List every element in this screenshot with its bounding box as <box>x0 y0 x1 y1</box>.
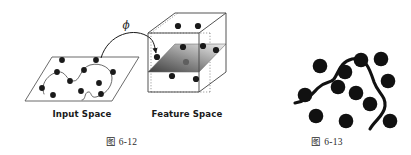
data-point <box>154 54 160 60</box>
data-point <box>67 78 73 84</box>
data-point <box>96 80 102 86</box>
feature-space-label: Feature Space <box>152 109 223 119</box>
data-point <box>338 65 353 80</box>
data-point <box>50 92 56 98</box>
data-point <box>98 91 104 97</box>
data-point <box>363 97 378 112</box>
input-space-label: Input Space <box>53 109 112 119</box>
input-space-plane <box>25 57 139 101</box>
data-point <box>180 44 186 50</box>
data-point <box>383 114 398 129</box>
right-figure-points <box>298 52 398 129</box>
feature-space-group: Feature Space <box>148 13 226 119</box>
input-space-group: Input Space <box>25 57 139 119</box>
figure-canvas: Input Space ϕ <box>0 0 411 155</box>
data-point <box>354 53 369 68</box>
data-point <box>213 47 219 53</box>
data-point <box>81 67 87 73</box>
data-point <box>381 74 396 89</box>
data-point <box>54 69 60 75</box>
data-point <box>331 80 346 95</box>
phi-symbol: ϕ <box>122 19 129 31</box>
data-point <box>110 69 116 75</box>
data-point <box>175 23 181 29</box>
data-point <box>78 88 84 94</box>
data-point <box>200 43 206 49</box>
data-point <box>298 88 313 103</box>
data-point <box>93 57 99 63</box>
data-point <box>193 76 199 82</box>
caption-figure-6-13: 图 6-13 <box>243 134 411 148</box>
data-point <box>309 109 324 124</box>
data-point <box>374 52 389 67</box>
data-point <box>59 57 65 63</box>
data-point <box>339 114 354 129</box>
figure-root: Input Space ϕ <box>0 0 411 155</box>
data-point <box>313 59 328 74</box>
data-point <box>169 73 175 79</box>
right-figure-group <box>295 52 397 129</box>
data-point <box>39 85 45 91</box>
data-point <box>195 23 201 29</box>
data-point <box>183 59 189 65</box>
caption-figure-6-12: 图 6-12 <box>0 134 243 148</box>
data-point <box>349 86 364 101</box>
